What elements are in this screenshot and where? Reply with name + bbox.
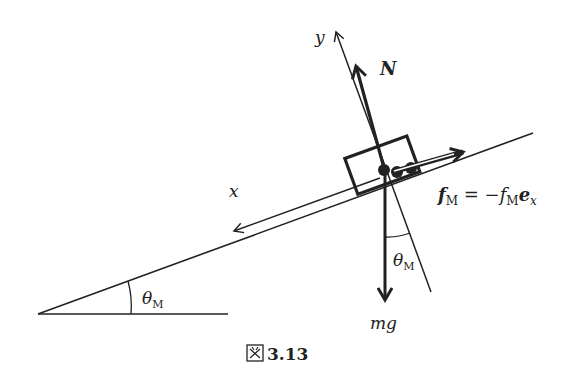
friction-force-arrow-inner [394,154,454,171]
normal-force-label: N [379,58,398,79]
incline-surface [38,133,533,314]
gravity-label: mg [370,313,397,333]
inclined-plane-diagram: y N x fM = −fMex θM θM mg 3.13 図 [0,0,574,374]
x-axis-arrow [234,178,380,231]
x-axis-label: x [229,181,239,201]
y-axis-label: y [314,27,325,47]
base-angle-arc [128,281,131,314]
base-angle-label: θM [142,288,164,311]
vertical-angle-arc [386,233,410,237]
friction-label: fM = −fMex [436,184,537,208]
vertical-angle-label: θM [393,250,415,273]
caption-number: 3.13 [267,344,308,364]
